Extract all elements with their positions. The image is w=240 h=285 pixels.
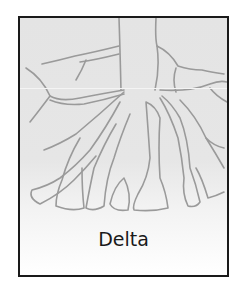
main-channel — [119, 18, 158, 90]
scan-seam — [20, 88, 227, 89]
left-arc-channel — [30, 96, 50, 122]
distributary — [160, 96, 200, 207]
left-arc-channel — [26, 68, 124, 100]
upper-right-branch — [157, 46, 224, 74]
distributary — [44, 92, 124, 150]
diagram-title: Delta — [20, 228, 227, 250]
distributary — [134, 102, 169, 211]
upper-right-loop — [160, 81, 227, 102]
upper-left-twig — [76, 60, 86, 80]
distributary — [110, 178, 129, 210]
distributary — [180, 100, 224, 168]
diagram-frame: Delta — [18, 16, 229, 277]
distributary — [86, 114, 130, 210]
distributary — [196, 168, 224, 198]
